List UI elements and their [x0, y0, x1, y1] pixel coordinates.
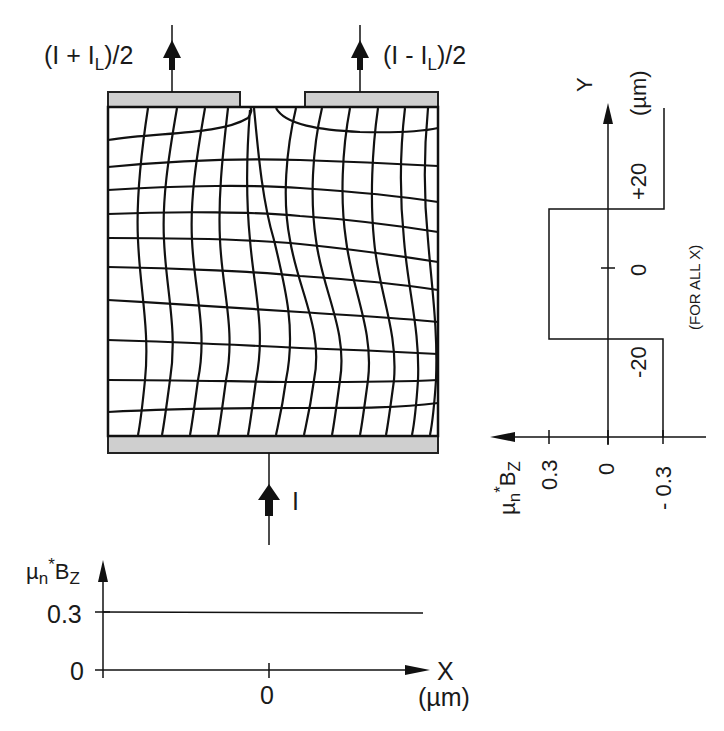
top-left-current-arrow-icon — [163, 40, 181, 70]
right-y-tick-plus20: +20 — [626, 163, 651, 200]
hall-device-diagram: (I + IL)/2 (I - IL)/2 I Y (µm) +20 0 -20… — [0, 0, 724, 731]
equipotential-lines — [108, 108, 438, 412]
bottom-x-axis-arrow-icon — [405, 665, 430, 675]
right-x-tick-minus0.3: - 0.3 — [651, 466, 676, 510]
bottom-contact — [108, 436, 438, 453]
top-right-current-arrow-icon — [351, 40, 369, 70]
right-y-axis-unit: (µm) — [626, 70, 651, 116]
bottom-x-axis-label: X — [437, 657, 454, 685]
bottom-x-tick-0: 0 — [260, 681, 274, 709]
current-flow-lines — [137, 108, 436, 435]
top-left-current-label: (I + IL)/2 — [44, 41, 133, 74]
bottom-current-arrow-icon — [258, 484, 280, 516]
right-profile-note: (FOR ALL X) — [686, 245, 703, 330]
bottom-current-label: I — [292, 487, 299, 515]
device-body — [108, 107, 438, 436]
bottom-x-axis-unit: (µm) — [418, 683, 470, 711]
top-left-contact — [108, 92, 240, 107]
right-profile-chart: Y (µm) +20 0 -20 (FOR ALL X) 0.3 0 - 0.3… — [490, 70, 706, 515]
bottom-profile-chart: µn*BZ 0.3 0 0 X (µm) — [26, 555, 470, 711]
bottom-profile-curve — [103, 612, 423, 613]
bottom-y-tick-0.3: 0.3 — [47, 600, 82, 628]
right-x-axis-arrow-icon — [490, 432, 515, 442]
bottom-y-axis-label: µn*BZ — [26, 555, 80, 588]
right-x-tick-0: 0 — [594, 463, 619, 475]
bottom-y-tick-0: 0 — [70, 657, 84, 685]
right-y-axis-arrow-icon — [603, 103, 613, 124]
right-y-tick-0: 0 — [626, 264, 651, 276]
right-x-tick-0.3: 0.3 — [537, 459, 562, 490]
top-right-contact — [305, 92, 438, 107]
right-y-tick-minus20: -20 — [626, 346, 651, 378]
device: (I + IL)/2 (I - IL)/2 I — [44, 25, 466, 545]
top-right-current-label: (I - IL)/2 — [383, 41, 466, 74]
right-y-axis-label: Y — [572, 77, 597, 92]
bottom-y-axis-arrow-icon — [98, 560, 108, 582]
right-x-axis-label: µn*BZ — [491, 461, 524, 515]
